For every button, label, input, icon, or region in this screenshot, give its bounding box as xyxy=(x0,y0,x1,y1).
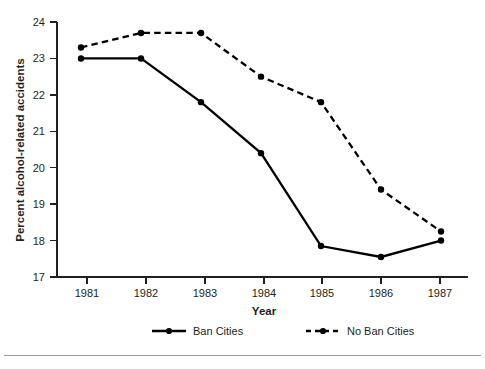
legend-label-ban-cities: Ban Cities xyxy=(193,325,244,337)
x-tick-label: 1987 xyxy=(428,287,452,299)
series-markers-no-ban-cities xyxy=(78,30,444,235)
y-axis-ticks xyxy=(50,22,57,277)
y-axis-tick-labels: 24 23 22 21 20 19 18 17 xyxy=(33,16,45,283)
x-axis-tick-labels: 1981 1982 1983 1984 1985 1986 1987 xyxy=(75,287,452,299)
series-markers-ban-cities xyxy=(78,55,444,260)
legend-label-no-ban-cities: No Ban Cities xyxy=(347,325,415,337)
x-tick-label: 1985 xyxy=(310,287,334,299)
y-tick-label: 17 xyxy=(33,271,45,283)
series-line-ban-cities xyxy=(81,58,441,257)
line-chart: 24 23 22 21 20 19 18 17 Percent alcohol-… xyxy=(0,0,485,369)
x-tick-label: 1982 xyxy=(134,287,158,299)
y-tick-label: 21 xyxy=(33,125,45,137)
data-point-marker xyxy=(318,99,324,105)
x-axis-ticks xyxy=(87,277,440,284)
chart-legend: Ban Cities No Ban Cities xyxy=(152,325,415,337)
x-tick-label: 1983 xyxy=(193,287,217,299)
chart-figure: 24 23 22 21 20 19 18 17 Percent alcohol-… xyxy=(0,0,485,369)
y-tick-label: 22 xyxy=(33,89,45,101)
series-line-no-ban-cities xyxy=(81,33,441,232)
data-point-marker xyxy=(198,30,204,36)
x-tick-label: 1986 xyxy=(369,287,393,299)
legend-entry-ban-cities[interactable]: Ban Cities xyxy=(152,325,244,337)
x-axis-title: Year xyxy=(252,305,277,317)
y-tick-label: 19 xyxy=(33,198,45,210)
x-tick-label: 1984 xyxy=(252,287,276,299)
data-point-marker xyxy=(378,186,384,192)
y-tick-label: 23 xyxy=(33,52,45,64)
data-point-marker xyxy=(438,237,444,243)
legend-marker-circle-icon xyxy=(320,328,326,334)
legend-entry-no-ban-cities[interactable]: No Ban Cities xyxy=(306,325,415,337)
y-axis-title: Percent alcohol-related accidents xyxy=(14,58,26,241)
data-point-marker xyxy=(258,73,264,79)
data-point-marker xyxy=(438,228,444,234)
data-point-marker xyxy=(318,243,324,249)
data-point-marker xyxy=(78,55,84,61)
legend-marker-circle-icon xyxy=(166,328,172,334)
data-point-marker xyxy=(198,99,204,105)
y-tick-label: 24 xyxy=(33,16,45,28)
data-point-marker xyxy=(78,44,84,50)
y-tick-label: 18 xyxy=(33,235,45,247)
x-tick-label: 1981 xyxy=(75,287,99,299)
data-point-marker xyxy=(138,30,144,36)
y-tick-label: 20 xyxy=(33,162,45,174)
data-point-marker xyxy=(258,150,264,156)
data-point-marker xyxy=(138,55,144,61)
data-point-marker xyxy=(378,254,384,260)
